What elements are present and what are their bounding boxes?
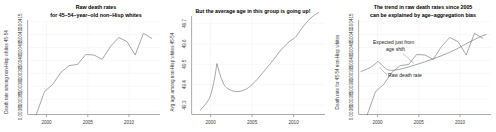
- panel-1-subtitle: for 45–54–year–old non–Hisp whites: [50, 13, 141, 19]
- panel-age-aggregation-bias: The trend in raw death rates since 2005 …: [331, 0, 496, 132]
- panel-2-data-line: [201, 13, 319, 110]
- panel-3-plot: The trend in raw death rates since 2005 …: [331, 0, 496, 132]
- panel-3-y-ticklabels: 0.00380 0.00385 0.00390 0.00395 0.00400 …: [349, 13, 354, 120]
- figure-panel-row: Raw death rates for 45–54–year–old non–H…: [0, 0, 496, 132]
- xtick-label: 2000: [206, 120, 217, 125]
- panel-1-gridlines: [28, 20, 160, 114]
- panel-1-title: Raw death rates: [76, 4, 117, 10]
- raw-death-rate-label: Raw death rate: [388, 72, 422, 78]
- ytick-label: 49.3: [182, 100, 187, 109]
- xtick-label: 2010: [455, 120, 466, 125]
- panel-2-y-ticklabels: 49.3 49.4 49.5 49.6 49.7: [182, 18, 187, 109]
- xtick-label: 2000: [41, 120, 52, 125]
- panel-2-title: But the average age in this group is goi…: [196, 8, 311, 14]
- ytick-label: 49.5: [182, 59, 187, 68]
- ytick-label: 0.00415: [349, 13, 354, 30]
- xtick-label: 2000: [372, 120, 383, 125]
- panel-3-x-tickmarks: [377, 114, 459, 116]
- panel-2-gridlines: [192, 18, 325, 114]
- panel-2-x-tickmarks: [211, 114, 294, 116]
- panel-1-x-tickmarks: [46, 114, 128, 116]
- panel-2-y-axis-label: Avg age among non-Hisp whites 45-54: [170, 32, 175, 111]
- expected-leader-line: [403, 54, 414, 64]
- xtick-label: 2005: [247, 120, 258, 125]
- panel-3-y-axis-label: Death rate for 45-54 non-Hisp whites: [335, 34, 340, 110]
- panel-3-gridlines: [359, 20, 491, 114]
- panel-raw-death-rates: Raw death rates for 45–54–year–old non–H…: [0, 0, 165, 132]
- ytick-label: 49.6: [182, 39, 187, 48]
- panel-3-title: The trend in raw death rates since 2005: [373, 4, 472, 10]
- panel-3-x-ticklabels: 2000 2005 2010: [372, 120, 465, 125]
- xtick-label: 2010: [124, 120, 135, 125]
- xtick-label: 2005: [83, 120, 94, 125]
- xtick-label: 2005: [413, 120, 424, 125]
- panel-average-age: But the average age in this group is goi…: [165, 0, 330, 132]
- panel-3-annotation-expected: Expected just from age shift: [373, 40, 414, 64]
- expected-from-age-shift-label-line2: age shift: [386, 47, 405, 53]
- raw-leader-line: [379, 67, 386, 75]
- expected-from-age-shift-label: Expected just from: [373, 40, 414, 46]
- panel-1-y-ticklabels: 0.00380 0.00385 0.00390 0.00395 0.00400 …: [18, 13, 23, 120]
- panel-3-raw-death-rate-line: [367, 33, 482, 114]
- ytick-label: 0.00415: [18, 13, 23, 30]
- panel-1-plot: Raw death rates for 45–54–year–old non–H…: [0, 0, 165, 132]
- panel-2-x-ticklabels: 2000 2005 2010: [206, 120, 300, 125]
- panel-1-x-ticklabels: 2000 2005 2010: [41, 120, 134, 125]
- panel-1-y-axis-label: Death rate among non-Hisp whites 45-54: [4, 30, 9, 114]
- panel-2-plot: But the average age in this group is goi…: [165, 0, 330, 132]
- panel-1-data-line: [36, 33, 151, 114]
- xtick-label: 2010: [289, 120, 300, 125]
- ytick-label: 49.4: [182, 80, 187, 89]
- ytick-label: 49.7: [182, 18, 187, 27]
- panel-3-subtitle: can be explained by age–aggregation bias: [370, 13, 476, 19]
